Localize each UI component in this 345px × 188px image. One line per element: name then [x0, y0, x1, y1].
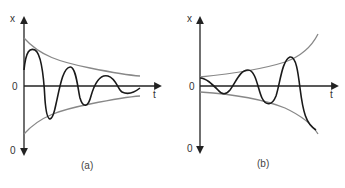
panel-a-bottom-label: 0	[10, 145, 16, 156]
panel-a-upper-envelope	[24, 38, 140, 76]
panel-b-bottom-label: 0	[187, 143, 193, 154]
panel-b-t-label: t	[330, 89, 333, 100]
panel-b: x 0 0 t (b)	[187, 13, 335, 169]
panel-a-origin-label: 0	[12, 81, 18, 92]
panel-b-origin-label: 0	[189, 81, 195, 92]
panel-b-lower-envelope	[200, 92, 318, 134]
panel-b-caption: (b)	[257, 158, 269, 169]
panel-b-upper-envelope	[200, 34, 318, 77]
panel-a-damped-signal	[24, 49, 140, 119]
figure-canvas: x 0 0 t (a) x 0 0 t (b)	[0, 0, 345, 188]
panel-a-t-label: t	[153, 89, 156, 100]
panel-a-y-label: x	[10, 13, 15, 24]
panel-b-y-label: x	[187, 13, 192, 24]
panel-a: x 0 0 t (a)	[10, 13, 158, 171]
panel-a-caption: (a)	[81, 160, 93, 171]
